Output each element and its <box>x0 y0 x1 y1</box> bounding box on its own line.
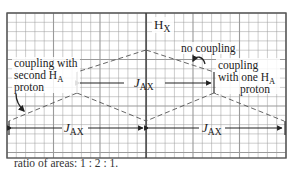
curved-arrow-icon <box>193 57 205 64</box>
coupling-one-ha-annotation: coupling with one HA proton <box>216 58 280 96</box>
svg-text:proton: proton <box>240 83 270 96</box>
dashed-split-line-lower-left-a <box>9 93 77 121</box>
coupling-second-ha-annotation: coupling with second HA proton <box>12 57 80 111</box>
jax-left-label: JAX <box>64 120 84 137</box>
coupling-tree-diagram: JAX JAX JAX HX no coupling coupling with… <box>0 0 294 175</box>
hx-label: HX <box>152 17 174 34</box>
dashed-split-line-lower-left-b <box>77 93 146 121</box>
jax-top-label: JAX <box>134 75 154 92</box>
svg-text:no coupling: no coupling <box>181 42 236 55</box>
caption: ratio of areas: 1 : 2 : 1. <box>14 157 118 169</box>
dashed-split-line-lower-right-a <box>146 93 214 121</box>
svg-text:proton: proton <box>14 81 44 94</box>
